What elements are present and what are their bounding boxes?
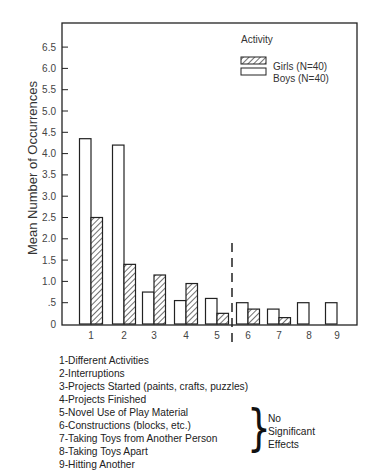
legend-title: Activity (241, 34, 273, 45)
y-tick-label: 0 (50, 319, 56, 330)
bar-girls (124, 264, 136, 324)
y-axis-label: Mean Number of Occurrences (25, 80, 40, 255)
y-tick-label: 6.5 (42, 42, 56, 53)
category-key: 1-Different Activities 2-Interruptions 3… (59, 354, 248, 471)
bar-boys (298, 303, 310, 324)
y-tick-label: 4.0 (42, 148, 56, 159)
y-tick-label: 1.5 (42, 255, 56, 266)
x-tick-label: 4 (183, 330, 189, 341)
y-tick-label: 5.0 (42, 106, 56, 117)
bar-boys (326, 303, 338, 324)
legend-swatch-boys (241, 68, 266, 75)
y-tick-label: 4.5 (42, 127, 56, 138)
x-axis-labels: 123456789 (88, 330, 340, 341)
x-tick-label: 2 (121, 330, 127, 341)
key-item: 6-Constructions (blocks, etc.) (59, 419, 248, 432)
bar-boys (143, 292, 155, 324)
x-tick-label: 8 (306, 330, 312, 341)
bar-girls (279, 318, 291, 324)
y-tick-label: 1.0 (42, 276, 56, 287)
bars (80, 139, 338, 324)
y-tick-label: 2.5 (42, 212, 56, 223)
bar-chart: 0.51.01.52.02.53.03.54.04.55.05.56.06.5 … (0, 0, 372, 352)
brace-note-line: Effects (268, 438, 315, 451)
y-axis-ticks: 0.51.01.52.02.53.03.54.04.55.05.56.06.5 (42, 42, 68, 330)
key-item: 3-Projects Started (paints, crafts, puzz… (59, 380, 248, 393)
y-tick-label: .5 (48, 297, 57, 308)
bar-boys (268, 309, 280, 324)
bar-girls (91, 218, 103, 325)
key-item: 8-Taking Toys Apart (59, 445, 248, 458)
legend: Activity Girls (N=40) Boys (N=40) (241, 34, 329, 84)
key-item: 2-Interruptions (59, 367, 248, 380)
bar-boys (206, 298, 218, 324)
key-item: 9-Hitting Another (59, 458, 248, 471)
x-tick-label: 5 (214, 330, 220, 341)
brace-note-line: No (268, 412, 315, 425)
legend-label-girls: Girls (N=40) (273, 61, 327, 72)
bar-boys (113, 145, 125, 324)
x-tick-label: 1 (88, 330, 94, 341)
no-significant-effects-note: No Significant Effects (268, 412, 315, 451)
key-item: 7-Taking Toys from Another Person (59, 432, 248, 445)
bar-girls (186, 284, 198, 324)
x-tick-label: 9 (334, 330, 340, 341)
x-tick-label: 6 (245, 330, 251, 341)
y-tick-label: 3.0 (42, 191, 56, 202)
bar-girls (154, 275, 166, 324)
bar-boys (237, 303, 249, 324)
bar-girls (248, 309, 260, 324)
key-item: 1-Different Activities (59, 354, 248, 367)
x-tick-label: 3 (151, 330, 157, 341)
key-item: 4-Projects Finished (59, 393, 248, 406)
legend-swatch-girls (241, 57, 266, 64)
x-tick-label: 7 (276, 330, 282, 341)
legend-label-boys: Boys (N=40) (273, 73, 329, 84)
y-tick-label: 2.0 (42, 233, 56, 244)
y-tick-label: 3.5 (42, 169, 56, 180)
bar-boys (80, 139, 92, 324)
y-tick-label: 5.5 (42, 84, 56, 95)
bar-girls (217, 313, 229, 324)
key-item: 5-Novel Use of Play Material (59, 406, 248, 419)
brace-note-line: Significant (268, 425, 315, 438)
y-tick-label: 6.0 (42, 63, 56, 74)
bar-boys (175, 301, 187, 324)
